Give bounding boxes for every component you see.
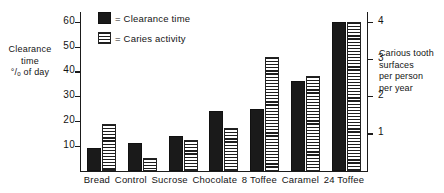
- right-tick-label: 2: [378, 89, 384, 100]
- bar-group: [128, 12, 157, 171]
- bar-groups: [81, 12, 366, 171]
- right-tick-mark: [368, 96, 373, 97]
- right-tick-label: 4: [378, 15, 384, 26]
- category-label: Caramel: [282, 174, 319, 185]
- bar-clearance-time: [128, 143, 142, 170]
- category-label: 24 Toffee: [324, 174, 365, 185]
- right-axis-title-line-2: surfaces: [379, 60, 444, 72]
- bar-clearance-time: [291, 81, 305, 170]
- bar-group: [332, 12, 361, 171]
- left-axis-title-line-1: Clearance: [2, 44, 58, 56]
- bar-clearance-time: [250, 109, 264, 171]
- bar-clearance-time: [209, 111, 223, 170]
- bar-chart: Clearance time °/ₒ of day Carious tooth …: [0, 0, 444, 193]
- left-tick-mark: [75, 146, 80, 147]
- bar-caries-activity: [184, 140, 198, 171]
- left-axis-title-line-2: time: [2, 56, 58, 68]
- left-tick-label: 20: [63, 114, 75, 125]
- left-tick-mark: [75, 47, 80, 48]
- left-tick-mark: [75, 96, 80, 97]
- plot-area: 605040302010 4321: [80, 12, 368, 172]
- left-axis-title-line-3: °/ₒ of day: [2, 67, 58, 79]
- right-tick-label: 1: [378, 126, 384, 137]
- left-axis-title: Clearance time °/ₒ of day: [2, 44, 58, 79]
- bar-group: [250, 12, 279, 171]
- right-tick-label: 3: [378, 52, 384, 63]
- bar-clearance-time: [169, 136, 183, 171]
- right-axis-title: Carious tooth surfaces per person per ye…: [379, 48, 444, 94]
- left-tick-label: 60: [63, 15, 75, 26]
- category-label: Bread: [84, 174, 110, 185]
- left-tick-mark: [75, 22, 80, 23]
- bar-group: [87, 12, 116, 171]
- bar-clearance-time: [87, 148, 101, 170]
- right-tick-mark: [368, 133, 373, 134]
- bar-caries-activity: [265, 57, 279, 171]
- bottom-axis-line: [80, 171, 368, 172]
- bar-caries-activity: [143, 158, 157, 170]
- right-axis-title-line-4: per year: [379, 83, 444, 95]
- bar-caries-activity: [347, 22, 361, 171]
- right-tick-mark: [368, 22, 373, 23]
- bar-clearance-time: [332, 22, 346, 171]
- x-axis-category-labels: BreadControlSucroseChocolate8 ToffeeCara…: [81, 174, 366, 190]
- category-label: Control: [115, 174, 147, 185]
- bar-caries-activity: [224, 128, 238, 170]
- bar-caries-activity: [102, 124, 116, 171]
- bar-group: [169, 12, 198, 171]
- left-tick-label: 40: [63, 64, 75, 75]
- left-tick-mark: [75, 71, 80, 72]
- left-tick-label: 10: [63, 139, 75, 150]
- left-tick-label: 50: [63, 40, 75, 51]
- left-tick-label: 30: [63, 89, 75, 100]
- right-axis-title-line-3: per person: [379, 71, 444, 83]
- category-label: Chocolate: [193, 174, 238, 185]
- bar-group: [291, 12, 320, 171]
- left-tick-mark: [75, 121, 80, 122]
- bar-caries-activity: [306, 76, 320, 170]
- bar-group: [209, 12, 238, 171]
- category-label: Sucrose: [152, 174, 188, 185]
- right-axis-line: [367, 12, 368, 172]
- category-label: 8 Toffee: [242, 174, 277, 185]
- right-tick-mark: [368, 59, 373, 60]
- right-axis-title-line-1: Carious tooth: [379, 48, 444, 60]
